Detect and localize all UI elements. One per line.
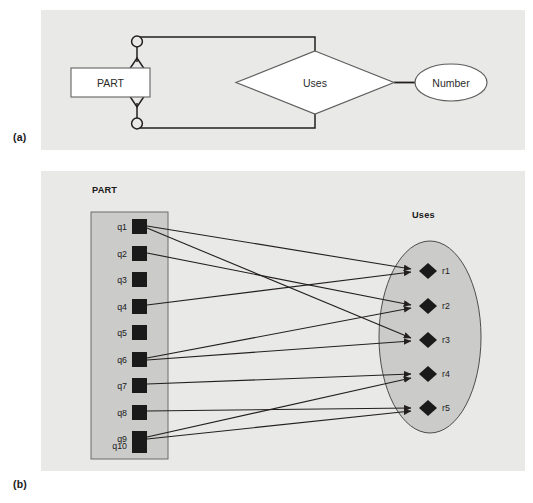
edge-q1-r1 <box>147 226 411 269</box>
filled-square-icon <box>132 438 147 453</box>
edge-group <box>147 226 411 439</box>
filled-square-icon <box>132 299 147 314</box>
member-label-r3: r3 <box>442 335 450 345</box>
left-set-rect <box>91 212 168 459</box>
figure-page: PART Uses Number (a) PART Uses <box>0 0 533 503</box>
filled-square-icon <box>132 405 147 420</box>
member-label-q3: q3 <box>117 275 127 285</box>
member-label-q6: q6 <box>117 355 127 365</box>
list-item[interactable]: q1 <box>117 219 147 234</box>
edge-q1-r3 <box>147 228 411 338</box>
list-item[interactable]: q3 <box>117 272 147 287</box>
member-label-r1: r1 <box>442 266 450 276</box>
member-label-r5: r5 <box>442 403 450 413</box>
edge-q7-r4 <box>147 374 411 384</box>
list-item[interactable]: q5 <box>117 325 147 340</box>
panel-a-er-diagram: PART Uses Number <box>41 10 525 150</box>
list-item[interactable]: q2 <box>117 246 147 261</box>
member-label-r4: r4 <box>442 369 450 379</box>
member-label-q5: q5 <box>117 328 127 338</box>
edge-q4-r1 <box>147 272 411 305</box>
attribute-number-label: Number <box>432 77 470 89</box>
panel-b-instance-diagram: PART Uses <box>41 171 525 471</box>
edge-q2-r2 <box>147 253 411 305</box>
filled-square-icon <box>132 352 147 367</box>
member-label-q4: q4 <box>117 302 127 312</box>
filled-square-icon <box>132 219 147 234</box>
panel-a-caption: (a) <box>13 131 26 143</box>
list-item[interactable]: q6 <box>117 352 147 367</box>
list-item[interactable]: q4 <box>117 299 147 314</box>
list-item[interactable]: q8 <box>117 405 147 420</box>
member-label-r2: r2 <box>442 301 450 311</box>
filled-square-icon <box>132 272 147 287</box>
member-label-q2: q2 <box>117 249 127 259</box>
list-item[interactable]: q7 <box>117 378 147 393</box>
optional-zero-marker-bottom-icon <box>132 118 143 129</box>
entity-part-label: PART <box>97 77 125 89</box>
member-label-q1: q1 <box>117 222 127 232</box>
filled-square-icon <box>132 246 147 261</box>
member-label-q8: q8 <box>117 408 127 418</box>
member-label-q7: q7 <box>117 381 127 391</box>
filled-square-icon <box>132 378 147 393</box>
panel-a-canvas: PART Uses Number <box>41 10 525 150</box>
member-label-q10: q10 <box>112 441 127 451</box>
edge-q9-r5 <box>147 411 411 439</box>
relationship-uses-label: Uses <box>303 77 327 89</box>
panel-b-canvas: q1 q2 q3 q4 q5 <box>41 171 525 471</box>
edge-q8-r5 <box>147 408 411 411</box>
edge-q9-r4 <box>147 378 411 437</box>
filled-square-icon <box>132 325 147 340</box>
optional-zero-marker-top-icon <box>132 36 143 47</box>
panel-b-caption: (b) <box>13 478 27 490</box>
